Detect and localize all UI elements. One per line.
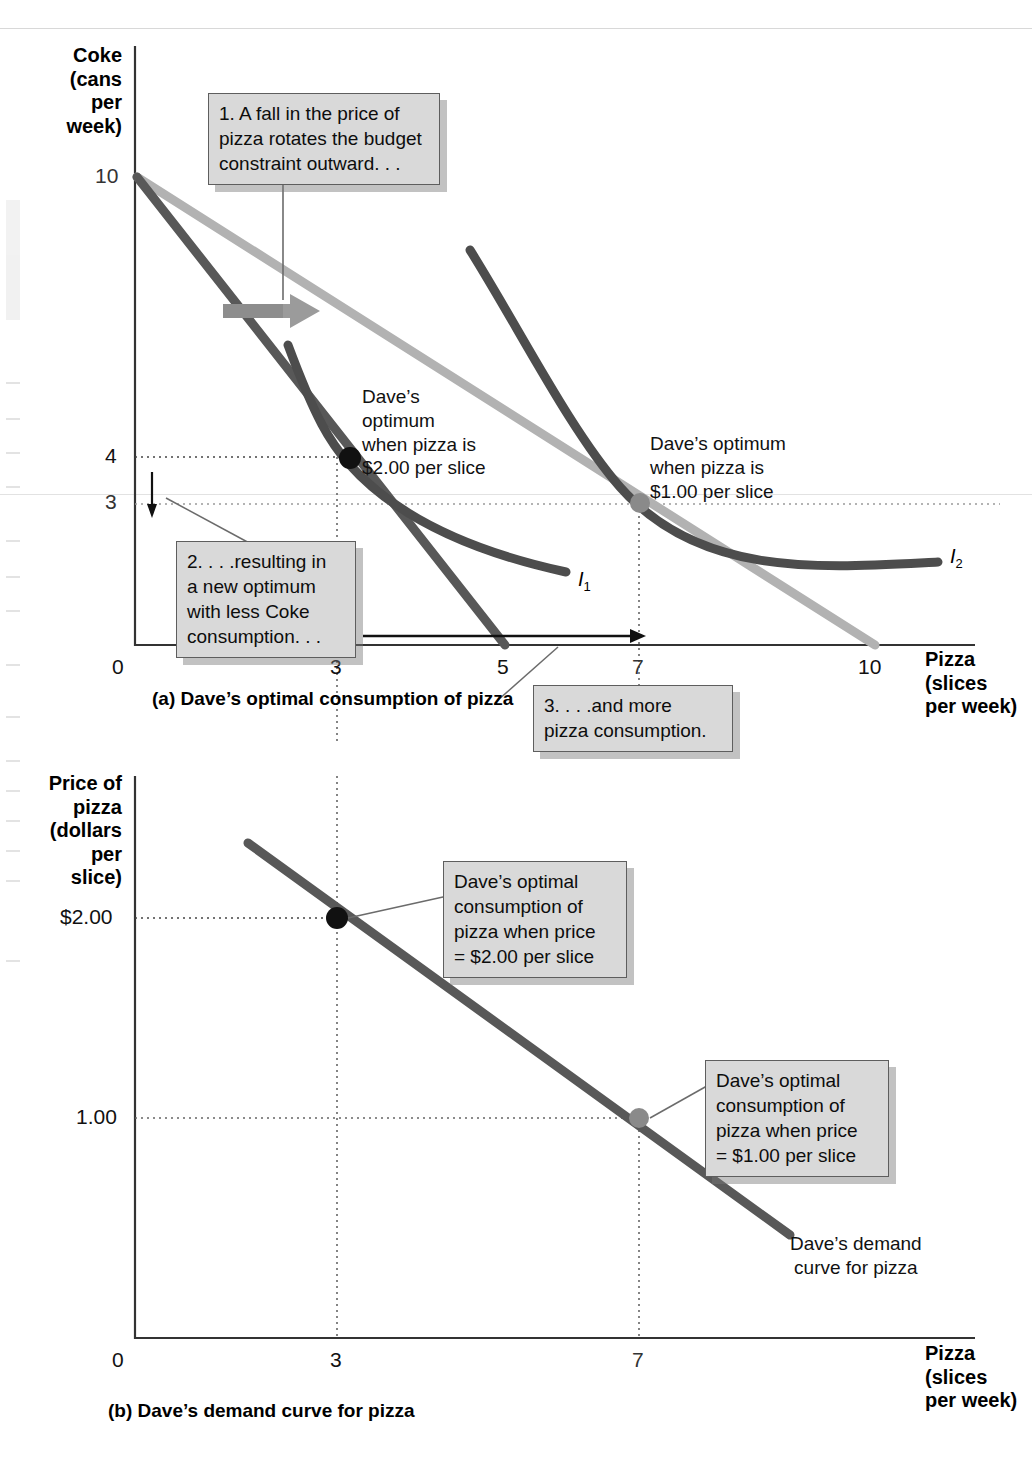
panel-b-ytick-200: $2.00: [60, 905, 113, 930]
panel-b-ytick-100: 1.00: [76, 1105, 117, 1130]
optimum-point-200: [339, 447, 361, 469]
panel-b-xtick-0: 0: [112, 1348, 124, 1373]
panel-b-y-axis-title: Price of pizza (dollars per slice): [26, 772, 122, 890]
callout-demand-optimum-200: Dave’s optimal consumption of pizza when…: [443, 861, 627, 978]
panel-a-y-axis-title: Coke (cans per week): [40, 44, 122, 138]
panel-a-xtick-7: 7: [632, 655, 644, 680]
panel-a-caption: (a) Dave’s optimal consumption of pizza: [152, 688, 513, 710]
optimum-point-100: [630, 493, 650, 513]
demand-point-200: [326, 907, 348, 929]
panel-a-ytick-3: 3: [105, 490, 117, 515]
panel-a-xtick-5: 5: [497, 655, 509, 680]
leader-demand-200: [348, 895, 452, 918]
demand-point-100: [629, 1108, 649, 1128]
curve-label-i1: I1: [578, 568, 591, 594]
panel-a-xtick-3: 3: [330, 655, 342, 680]
callout-step-3: 3. . . .and more pizza consumption.: [533, 685, 733, 752]
callout-demand-optimum-100: Dave’s optimal consumption of pizza when…: [705, 1060, 889, 1177]
indifference-curve-i2: [470, 250, 938, 566]
demand-curve-label: Dave’s demand curve for pizza: [790, 1232, 922, 1280]
panel-a-ytick-10: 10: [95, 164, 118, 189]
leader-step-2-arrowhead: [147, 504, 157, 518]
leader-step-2: [166, 498, 253, 545]
callout-step-1: 1. A fall in the price of pizza rotates …: [208, 93, 440, 185]
annotation-optimum-100: Dave’s optimum when pizza is $1.00 per s…: [650, 432, 786, 503]
panel-a-ytick-4: 4: [105, 444, 117, 469]
callout-step-2: 2. . . .resulting in a new optimum with …: [176, 541, 356, 658]
panel-b-x-axis-title: Pizza (slices per week): [925, 1342, 1030, 1413]
panel-b-caption: (b) Dave’s demand curve for pizza: [108, 1400, 415, 1422]
panel-a-xtick-0: 0: [112, 655, 124, 680]
panel-a-x-axis-title: Pizza (slices per week): [925, 648, 1030, 719]
curve-label-i2: I2: [950, 545, 963, 571]
figure-page: Coke (cans per week) 10 4 3 0 3 5 7 10 P…: [0, 0, 1032, 1475]
panel-a-plot: [0, 0, 1032, 760]
panel-a-xtick-10: 10: [858, 655, 881, 680]
annotation-optimum-200: Dave’s optimum when pizza is $2.00 per s…: [362, 385, 486, 480]
panel-b-xtick-3: 3: [330, 1348, 342, 1373]
panel-b-xtick-7: 7: [632, 1348, 644, 1373]
